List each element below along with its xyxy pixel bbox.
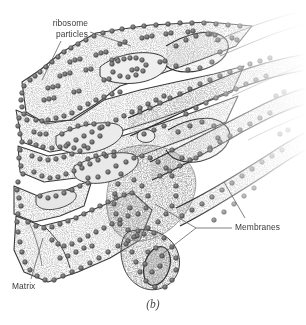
er-figure: ribosome particles Membranes Matrix (b) (0, 0, 306, 325)
label-membranes: Membranes (235, 222, 280, 233)
label-ribosome-line1: ribosome (26, 18, 88, 29)
label-ribosome-line2: particles (26, 29, 88, 40)
label-ribosome-particles: ribosome particles (26, 18, 88, 39)
label-matrix: Matrix (12, 281, 35, 292)
endoplasmic-reticulum-illustration (0, 0, 306, 325)
figure-caption: (b) (0, 298, 306, 310)
